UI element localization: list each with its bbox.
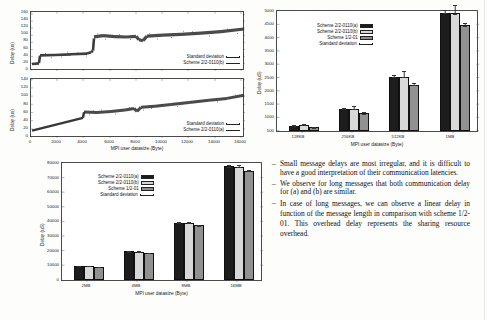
- error-bar: [453, 5, 457, 14]
- scatter-a-plot-area: Standard deviation Scheme 2/2-0110(a): [30, 78, 244, 137]
- bar-group-16mb: [224, 161, 254, 280]
- bar-scheme-c: [244, 171, 254, 281]
- chart-scatter-scheme-b: Delay (us) 160 140 120 100 80 60 40 20 0: [6, 6, 250, 80]
- scatter-b-ytick: 20: [12, 60, 28, 64]
- chart-bars-small-messages: Delay (uS) 5000 4500 4000 3500 3000 2500…: [253, 6, 483, 154]
- bar-group-512kb: [389, 9, 419, 131]
- error-bar: [147, 253, 151, 254]
- scatter-a-ytick: 60: [12, 110, 28, 114]
- scheme-b-swatch-icon: [141, 181, 154, 185]
- note-dash: –: [272, 160, 277, 177]
- bars-small-ytick: 1500: [257, 102, 274, 106]
- bars-large-xtick: 4MB: [123, 284, 149, 288]
- scatter-b-ytick: 100: [12, 31, 28, 35]
- bar-group-128kb: [289, 9, 319, 131]
- bars-large-xtick: 8MB: [173, 284, 199, 288]
- note-item: – Small message delays are most irregula…: [272, 160, 470, 177]
- scatter-a-ytick: 40: [12, 118, 28, 122]
- bar-scheme-c: [309, 127, 319, 131]
- error-bar: [247, 170, 251, 172]
- bar-scheme-a: [289, 126, 299, 131]
- error-bar: [197, 225, 201, 226]
- bars-small-ytick: 4500: [257, 22, 274, 26]
- bar-scheme-b: [84, 266, 94, 280]
- note-text: Small message delays are most irregular,…: [280, 160, 470, 177]
- scatter-a-xtick: 0: [22, 140, 38, 144]
- page-column-rule: [484, 0, 485, 320]
- bar-scheme-a: [124, 251, 134, 280]
- bars-large-ytick: 40000: [38, 219, 59, 223]
- bar-scheme-b: [299, 125, 309, 132]
- error-bar: [463, 23, 467, 26]
- bars-large-ytick: 70000: [38, 176, 59, 180]
- error-bar: [312, 127, 316, 128]
- error-bar: [292, 125, 296, 127]
- bar-scheme-b: [450, 13, 460, 131]
- bars-small-plot-area: Scheme 2/2-0110(a) Scheme 2/2-0110(b) Sc…: [276, 10, 478, 132]
- bar-scheme-a: [224, 166, 234, 280]
- legend-label-std: Standard deviation: [319, 41, 357, 47]
- bars-large-ytick: 50000: [38, 205, 59, 209]
- bar-group-8mb: [174, 161, 204, 280]
- bar-scheme-c: [359, 113, 369, 131]
- error-bar: [227, 165, 231, 168]
- bars-large-ytick: 30000: [38, 234, 59, 238]
- scatter-a-xtick: 10000: [153, 140, 169, 144]
- bars-small-ytick: 2500: [257, 76, 274, 80]
- scatter-a-xtick: 4000: [74, 140, 90, 144]
- error-bar: [342, 108, 346, 110]
- scatter-a-xtick: 14000: [206, 140, 222, 144]
- legend-label-scheme-a: Scheme 2/2-0110(a): [183, 127, 224, 133]
- error-bar: [362, 112, 366, 114]
- note-text: In case of long messages, we can observe…: [280, 199, 470, 239]
- bar-scheme-c: [144, 253, 154, 280]
- error-bar: [187, 222, 191, 224]
- bars-large-plot-area: Scheme 2/2-0110(a) Scheme 2/2-0110(b) Sc…: [61, 162, 262, 281]
- bar-scheme-c: [94, 267, 104, 280]
- std-deviation-line-icon: [226, 55, 240, 59]
- scatter-a-x-axis-title: MPI user datasize (Byte): [30, 146, 244, 151]
- note-item: – In case of long messages, we can obser…: [272, 199, 470, 239]
- legend-label-scheme-b: Scheme 2/2-0110(b): [183, 60, 224, 66]
- bars-small-x-axis-title: MPI user datasize (Byte): [276, 142, 478, 147]
- bar-group-1mb: [440, 9, 470, 131]
- scatter-a-ytick: 100: [12, 93, 28, 97]
- bars-large-ytick: 60000: [38, 190, 59, 194]
- scheme-a-swatch-icon: [141, 175, 154, 179]
- bar-scheme-c: [409, 85, 419, 132]
- bars-small-ytick: 2000: [257, 89, 274, 93]
- bar-scheme-b: [134, 252, 144, 280]
- note-item: – We observe for long messages that both…: [272, 180, 470, 197]
- bars-small-ytick: 1000: [257, 115, 274, 119]
- error-bar: [402, 71, 406, 78]
- scheme-a-line-icon: [226, 128, 240, 132]
- error-bar: [412, 83, 416, 85]
- bars-small-legend: Scheme 2/2-0110(a) Scheme 2/2-0110(b) Sc…: [317, 23, 373, 47]
- scatter-b-ytick: 60: [12, 46, 28, 50]
- scatter-b-legend: Standard deviation Scheme 2/2-0110(b): [183, 54, 240, 66]
- bars-small-ytick: 3000: [257, 62, 274, 66]
- bar-scheme-b: [349, 109, 359, 132]
- error-bar: [392, 75, 396, 78]
- std-deviation-line-icon: [140, 193, 154, 197]
- bars-small-ytick: 4000: [257, 36, 274, 40]
- scheme-b-swatch-icon: [360, 30, 373, 34]
- scatter-a-ytick: 20: [12, 126, 28, 130]
- scatter-a-xtick: 8000: [127, 140, 143, 144]
- error-bar: [97, 267, 101, 268]
- bars-large-legend: Scheme 2/2-0110(a) Scheme 2/2-0110(b) Sc…: [98, 174, 154, 198]
- scatter-a-ytick: 0: [12, 134, 28, 138]
- error-bar: [127, 251, 131, 252]
- scheme-b-line-icon: [226, 61, 240, 65]
- bars-large-x-axis-title: MPI user datasize (Byte): [61, 291, 262, 296]
- note-text: We observe for long messages that both c…: [280, 180, 470, 197]
- bars-small-ytick: 5000: [257, 9, 274, 13]
- scheme-c-swatch-icon: [141, 187, 154, 191]
- legend-label-std: Standard deviation: [100, 192, 138, 198]
- scatter-a-xtick: 6000: [101, 140, 117, 144]
- scatter-b-ytick: 80: [12, 38, 28, 42]
- bar-scheme-c: [194, 225, 204, 280]
- scatter-a-ytick: 120: [12, 85, 28, 89]
- bar-scheme-b: [184, 223, 194, 280]
- error-bar: [177, 222, 181, 224]
